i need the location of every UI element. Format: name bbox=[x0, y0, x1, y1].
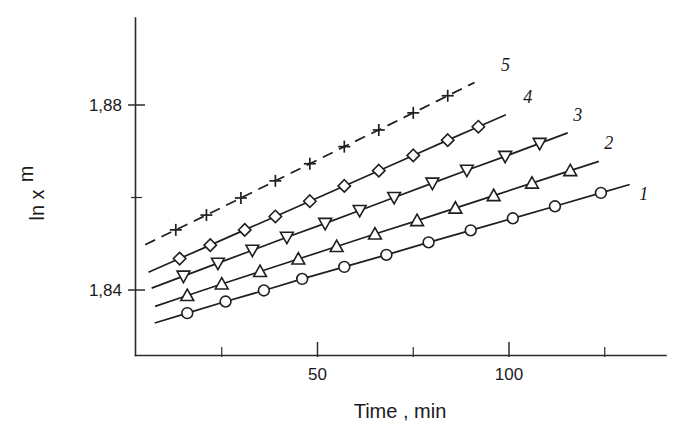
series-label-group: 12345 bbox=[501, 55, 648, 204]
x-axis-title: Time , min bbox=[354, 400, 447, 422]
data-point-diamond bbox=[173, 252, 185, 264]
x-tick-label-group: 50100 bbox=[308, 365, 523, 384]
data-point-triangle-down bbox=[533, 138, 546, 149]
data-point-circle bbox=[465, 225, 476, 236]
data-point-circle bbox=[507, 213, 518, 224]
x-axis-title-text: Time , min bbox=[354, 400, 447, 422]
data-point-plus bbox=[407, 107, 419, 119]
y-axis-title: ln x m bbox=[15, 166, 48, 221]
data-point-triangle-down bbox=[319, 218, 332, 229]
data-point-circle bbox=[423, 237, 434, 248]
data-point-plus bbox=[269, 175, 281, 187]
y-tick-label-group: 1,881,84 bbox=[89, 96, 122, 300]
data-point-triangle-down bbox=[280, 232, 293, 243]
data-point-diamond bbox=[269, 210, 281, 222]
data-series-group bbox=[145, 82, 630, 323]
data-point-plus bbox=[373, 124, 385, 136]
series-label-4: 4 bbox=[523, 87, 532, 107]
y-tick-label: 1,84 bbox=[89, 281, 122, 300]
data-point-triangle-down bbox=[177, 271, 190, 282]
y-axis-title-subscript: m bbox=[15, 166, 37, 183]
data-point-circle bbox=[550, 201, 561, 212]
data-point-plus bbox=[235, 192, 247, 204]
data-point-diamond bbox=[338, 180, 350, 192]
y-axis-title-text: ln x bbox=[26, 189, 48, 220]
data-point-triangle-down bbox=[499, 151, 512, 162]
data-point-diamond bbox=[407, 149, 419, 161]
series-label-2: 2 bbox=[604, 133, 613, 153]
data-point-plus bbox=[442, 90, 454, 102]
data-point-triangle-down bbox=[388, 193, 401, 204]
data-point-diamond bbox=[304, 195, 316, 207]
series-label-3: 3 bbox=[572, 105, 582, 125]
x-tick-label: 50 bbox=[308, 365, 327, 384]
y-tick-group bbox=[128, 105, 145, 290]
data-point-plus bbox=[304, 158, 316, 170]
data-point-diamond bbox=[373, 164, 385, 176]
data-point-circle bbox=[381, 249, 392, 260]
y-tick-label: 1,88 bbox=[89, 96, 122, 115]
x-tick-label: 100 bbox=[495, 365, 523, 384]
data-point-circle bbox=[182, 308, 193, 319]
data-point-circle bbox=[220, 296, 231, 307]
data-point-circle bbox=[297, 274, 308, 285]
data-point-circle bbox=[339, 261, 350, 272]
series-label-1: 1 bbox=[639, 184, 648, 204]
data-point-diamond bbox=[204, 239, 216, 251]
chart-figure: 1,881,84 50100 12345 Time , min ln x m bbox=[0, 0, 679, 446]
data-point-diamond bbox=[239, 224, 251, 236]
line-chart-canvas: 1,881,84 50100 12345 Time , min ln x m bbox=[0, 0, 679, 446]
data-point-triangle-down bbox=[246, 245, 259, 256]
series-label-5: 5 bbox=[501, 55, 510, 75]
data-point-plus bbox=[338, 141, 350, 153]
data-point-triangle-down bbox=[212, 258, 225, 269]
data-point-circle bbox=[596, 187, 607, 198]
data-point-triangle-down bbox=[426, 178, 439, 189]
data-point-plus bbox=[170, 224, 182, 236]
data-point-circle bbox=[258, 285, 269, 296]
data-point-triangle-down bbox=[353, 205, 366, 216]
data-point-diamond bbox=[442, 134, 454, 146]
data-point-plus bbox=[200, 209, 212, 221]
data-point-triangle-down bbox=[460, 165, 473, 176]
data-point-diamond bbox=[472, 121, 484, 133]
